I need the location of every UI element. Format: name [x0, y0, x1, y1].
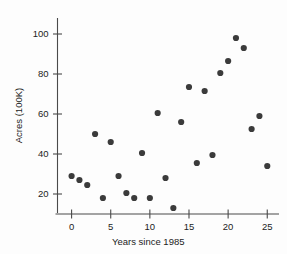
data-point [123, 190, 129, 196]
x-tick-label: 25 [262, 221, 273, 232]
data-point [92, 131, 98, 137]
x-tick-label: 15 [184, 221, 195, 232]
y-tick-label: 60 [38, 108, 49, 119]
x-tick-label: 0 [69, 221, 74, 232]
x-tick-label: 20 [223, 221, 234, 232]
data-point [68, 173, 74, 179]
data-point [233, 35, 239, 41]
data-point [225, 58, 231, 64]
x-tick-label: 10 [145, 221, 156, 232]
data-point [217, 70, 223, 76]
data-point [241, 45, 247, 51]
data-point [264, 163, 270, 169]
data-point [194, 160, 200, 166]
data-point [147, 195, 153, 201]
data-point [155, 110, 161, 116]
y-tick-label: 80 [38, 68, 49, 79]
data-point [186, 84, 192, 90]
data-point [209, 152, 215, 158]
data-point [178, 119, 184, 125]
data-point [162, 175, 168, 181]
data-point [131, 195, 137, 201]
data-point [100, 195, 106, 201]
x-axis-title: Years since 1985 [112, 236, 185, 247]
data-point [170, 205, 176, 211]
data-point [139, 150, 145, 156]
data-point [84, 182, 90, 188]
y-axis-title: Acres (100K) [13, 88, 24, 143]
y-tick-label: 100 [33, 28, 49, 39]
plot-area: 204060801000510152025Years since 1985Acr… [0, 0, 287, 254]
y-tick-label: 20 [38, 188, 49, 199]
x-tick-label: 5 [108, 221, 113, 232]
data-point [202, 88, 208, 94]
data-point [249, 126, 255, 132]
scatter-chart: 204060801000510152025Years since 1985Acr… [0, 0, 287, 254]
data-point [76, 177, 82, 183]
data-point [256, 113, 262, 119]
data-point [115, 173, 121, 179]
data-point [108, 139, 114, 145]
y-tick-label: 40 [38, 148, 49, 159]
